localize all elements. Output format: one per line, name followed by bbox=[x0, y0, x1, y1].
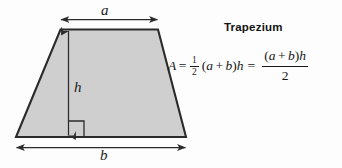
trapezium-diagram bbox=[0, 0, 342, 168]
area-formula: A = 1 2 ( a + b ) h = (a+b)h 2 bbox=[168, 48, 309, 84]
formula-variable-A: A bbox=[168, 58, 176, 74]
formula-one-half: 1 2 bbox=[190, 55, 199, 77]
formula-plus: + bbox=[213, 58, 226, 74]
formula-fraction: (a+b)h 2 bbox=[262, 48, 308, 84]
label-b: b bbox=[100, 148, 108, 163]
formula-second-equals: = bbox=[244, 58, 256, 74]
num-h: h bbox=[299, 48, 306, 63]
num-b: b bbox=[288, 48, 295, 63]
formula-fraction-denominator: 2 bbox=[280, 67, 291, 85]
formula-equals: = bbox=[176, 58, 189, 74]
num-plus: + bbox=[275, 48, 288, 63]
formula-fraction-numerator: (a+b)h bbox=[262, 48, 308, 66]
label-h: h bbox=[74, 80, 82, 95]
formula-a: a bbox=[206, 58, 213, 74]
formula-half-numerator: 1 bbox=[190, 55, 199, 66]
formula-b: b bbox=[226, 58, 233, 74]
label-a: a bbox=[101, 3, 109, 18]
trapezium-shape bbox=[16, 30, 186, 138]
formula-half-denominator: 2 bbox=[190, 67, 199, 78]
formula-h: h bbox=[237, 58, 244, 74]
figure-title: Trapezium bbox=[224, 22, 283, 34]
